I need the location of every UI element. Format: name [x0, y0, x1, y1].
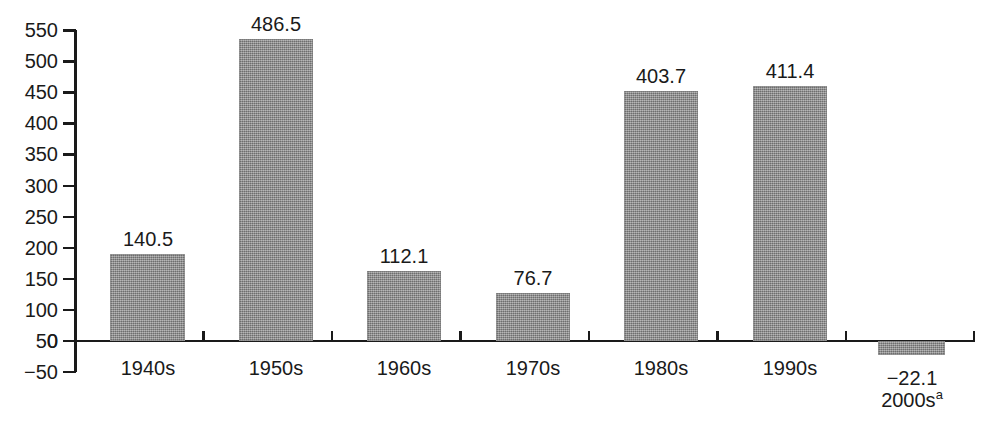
category-label-2000s: 2000sa	[852, 389, 972, 411]
category-label-1980s: 1980s	[601, 357, 721, 379]
category-labels-layer: 1940s 1950s 1960s 1970s 1980s 1990s 2000…	[0, 0, 1001, 424]
category-label-1950s: 1950s	[216, 357, 336, 379]
category-label-2000s-text: 2000s	[881, 389, 936, 411]
category-label-1970s: 1970s	[473, 357, 593, 379]
bar-chart: 550 500 450 400 350 300 250 200 150 100 …	[0, 0, 1001, 424]
category-label-1960s: 1960s	[344, 357, 464, 379]
category-footnote-marker-a: a	[936, 387, 943, 402]
category-label-1990s: 1990s	[730, 357, 850, 379]
category-label-1940s: 1940s	[88, 357, 208, 379]
